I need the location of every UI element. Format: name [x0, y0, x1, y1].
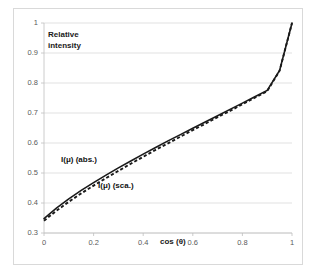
y-tick-marks: [41, 23, 44, 233]
x-tick-label: 0.6: [181, 238, 205, 247]
y-axis-title-line2: intensity: [48, 40, 81, 51]
y-tick-label: 0.4: [16, 198, 38, 207]
x-tick-label: 0: [32, 238, 56, 247]
x-tick-marks: [44, 233, 292, 236]
x-tick-label: 0.2: [82, 238, 106, 247]
y-tick-label: 0.3: [16, 228, 38, 237]
y-tick-label: 1: [16, 18, 38, 27]
plot-background: [44, 23, 292, 233]
x-tick-label: 1: [280, 238, 304, 247]
chart-container: Relative intensity cos (θ) I(μ) (abs.) I…: [13, 8, 303, 265]
y-tick-label: 0.5: [16, 168, 38, 177]
curve-label-sca: I(μ) (sca.): [98, 181, 134, 190]
y-tick-label: 0.8: [16, 78, 38, 87]
y-tick-label: 0.9: [16, 48, 38, 57]
curve-label-abs: I(μ) (abs.): [61, 155, 97, 164]
y-tick-label: 0.6: [16, 138, 38, 147]
x-tick-label: 0.8: [230, 238, 254, 247]
y-tick-label: 0.7: [16, 108, 38, 117]
x-tick-label: 0.4: [131, 238, 155, 247]
y-axis-title: Relative intensity: [48, 29, 81, 51]
y-axis-title-line1: Relative: [48, 29, 81, 40]
